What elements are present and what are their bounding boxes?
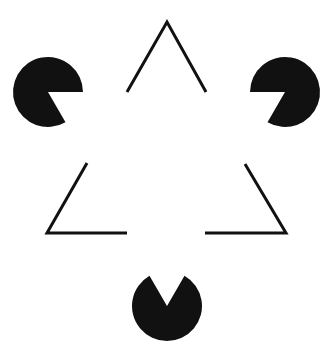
kanizsa-figure xyxy=(0,0,335,358)
background xyxy=(0,0,335,358)
